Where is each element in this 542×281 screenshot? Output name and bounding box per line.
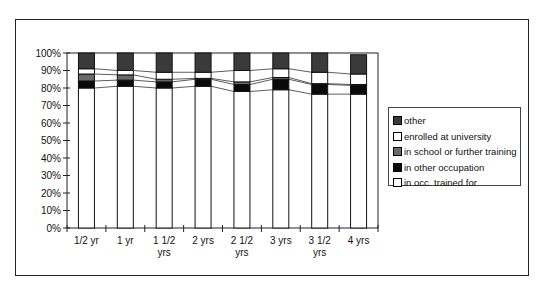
- y-axis: 0%10%20%30%40%50%60%70%80%90%100%: [35, 48, 70, 234]
- bar-segment-in-other-occupation: [273, 79, 289, 90]
- bar-segment-other: [273, 53, 289, 69]
- x-tick-label: 1 1/2: [153, 235, 176, 246]
- y-tick-label: 100%: [35, 48, 61, 59]
- bar-segment-enrolled-at-university: [234, 71, 250, 82]
- y-tick-label: 80%: [41, 83, 61, 94]
- x-tick-label: 4 yrs: [348, 235, 370, 246]
- legend-swatch: [393, 147, 402, 156]
- bar-segment-other: [156, 53, 172, 72]
- y-tick-label: 20%: [41, 188, 61, 199]
- bar-segment-in-occ-trained-for: [273, 90, 289, 228]
- legend-item: in other occupation: [393, 160, 520, 176]
- legend-swatch: [393, 163, 402, 172]
- bar-segment-enrolled-at-university: [78, 69, 94, 74]
- bar-segment-in-occ-trained-for: [195, 86, 211, 228]
- legend-swatch: [393, 132, 402, 141]
- bar-segment-in-occ-trained-for: [156, 88, 172, 228]
- bar-segment-in-school-or-further-training: [117, 75, 133, 80]
- legend-swatch: [393, 116, 402, 125]
- bar-segment-other: [351, 55, 367, 74]
- y-tick-label: 10%: [41, 205, 61, 216]
- bar-stack: [117, 53, 133, 228]
- legend-item: in school or further training: [393, 144, 520, 160]
- x-tick-label: 1/2 yr: [74, 235, 100, 246]
- bar-segment-enrolled-at-university: [195, 72, 211, 78]
- bar-segment-in-occ-trained-for: [117, 86, 133, 228]
- bar-segment-other: [234, 53, 250, 71]
- x-tick-label: yrs: [313, 247, 326, 258]
- bar-segment-other: [312, 53, 328, 72]
- y-tick-label: 0%: [47, 223, 62, 234]
- legend-item: in occ. trained for: [393, 175, 520, 191]
- bar-segment-enrolled-at-university: [117, 71, 133, 75]
- bar-segment-in-other-occupation: [234, 85, 250, 92]
- bar-stack: [312, 53, 328, 228]
- bar-segment-in-other-occupation: [312, 85, 328, 95]
- bar-segment-in-occ-trained-for: [351, 94, 367, 228]
- plot-area: [67, 53, 378, 228]
- bar-segment-in-other-occupation: [117, 80, 133, 86]
- bar-segment-in-other-occupation: [351, 85, 367, 94]
- x-tick-label: 2 1/2: [231, 235, 254, 246]
- bar-stack: [78, 53, 94, 228]
- legend-label: in other occupation: [404, 162, 484, 173]
- y-tick-label: 30%: [41, 170, 61, 181]
- bar-segment-in-occ-trained-for: [234, 92, 250, 229]
- x-tick-label: 3 yrs: [270, 235, 292, 246]
- bar-segment-in-occ-trained-for: [78, 88, 94, 228]
- bar-segment-enrolled-at-university: [312, 72, 328, 83]
- bar-stack: [156, 53, 172, 228]
- x-tick-label: yrs: [235, 247, 248, 258]
- bar-segment-in-school-or-further-training: [78, 74, 94, 81]
- bar-segment-other: [78, 53, 94, 69]
- legend-item: other: [393, 113, 520, 129]
- bar-segment-in-other-occupation: [78, 81, 94, 88]
- bar-segment-enrolled-at-university: [351, 74, 367, 85]
- legend-label: other: [404, 115, 426, 126]
- bar-segment-in-other-occupation: [156, 82, 172, 88]
- y-tick-label: 70%: [41, 100, 61, 111]
- bar-stack: [195, 53, 211, 228]
- bar-segment-other: [117, 53, 133, 71]
- bar-segment-other: [195, 53, 211, 72]
- bar-segment-enrolled-at-university: [156, 72, 172, 79]
- x-axis: 1/2 yr1 yr1 1/2yrs2 yrs2 1/2yrs3 yrs3 1/…: [67, 225, 378, 258]
- bar-stack: [234, 53, 250, 228]
- bar-segment-in-occ-trained-for: [312, 94, 328, 228]
- bar-stack: [273, 53, 289, 228]
- bar-stack: [351, 55, 367, 228]
- legend-swatch: [393, 178, 402, 187]
- legend-label: enrolled at university: [404, 131, 491, 142]
- y-tick-label: 60%: [41, 118, 61, 129]
- x-tick-label: yrs: [158, 247, 171, 258]
- x-tick-label: 3 1/2: [309, 235, 332, 246]
- x-tick-label: 1 yr: [117, 235, 134, 246]
- y-tick-label: 40%: [41, 153, 61, 164]
- plot-border: [67, 53, 378, 228]
- y-tick-label: 90%: [41, 65, 61, 76]
- legend-label: in school or further training: [404, 146, 516, 157]
- legend-label: in occ. trained for: [404, 177, 477, 188]
- x-tick-label: 2 yrs: [192, 235, 214, 246]
- legend: otherenrolled at universityin school or …: [388, 107, 521, 186]
- bar-segment-in-other-occupation: [195, 79, 211, 86]
- legend-item: enrolled at university: [393, 129, 520, 145]
- bar-segment-enrolled-at-university: [273, 69, 289, 78]
- y-tick-label: 50%: [41, 135, 61, 146]
